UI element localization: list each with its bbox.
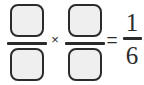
denominator-answer-box-1[interactable] <box>10 48 44 81</box>
result-numerator: 1 <box>122 10 142 36</box>
fraction-factor-1 <box>7 4 47 81</box>
result-denominator: 6 <box>122 43 142 69</box>
equals-icon: = <box>103 30 121 49</box>
math-problem-canvas: × = 1 6 <box>0 0 144 85</box>
fraction-result: 1 6 <box>122 10 142 72</box>
denominator-answer-box-2[interactable] <box>68 48 102 81</box>
fraction-factor-2 <box>65 4 105 81</box>
fraction-bar-1 <box>7 42 47 45</box>
numerator-answer-box-2[interactable] <box>68 4 102 37</box>
numerator-answer-box-1[interactable] <box>10 4 44 37</box>
fraction-bar-2 <box>65 42 105 45</box>
multiplication-icon: × <box>47 33 63 46</box>
fraction-bar-result <box>123 37 142 40</box>
